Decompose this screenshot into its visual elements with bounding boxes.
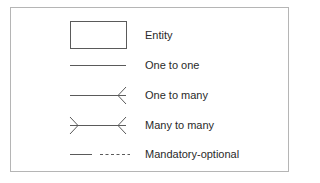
legend-label-one-to-many: One to many	[145, 89, 208, 101]
legend-label-mandatory-optional: Mandatory-optional	[145, 148, 239, 160]
legend-label-entity: Entity	[145, 29, 173, 41]
legend-label-many-to-many: Many to many	[145, 119, 214, 131]
many-to-many-icon	[70, 117, 126, 134]
one-to-many-icon	[70, 87, 126, 104]
legend-label-one-to-one: One to one	[145, 59, 199, 71]
entity-box-icon	[71, 22, 127, 49]
